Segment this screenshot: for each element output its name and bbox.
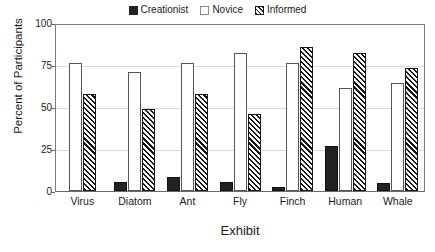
x-tick-label-virus: Virus: [56, 196, 109, 207]
legend-item-creationist: Creationist: [129, 5, 189, 15]
bar-fly-novice: [234, 53, 247, 191]
y-tick-mark-0: [51, 192, 55, 193]
y-tick-label-0: 0: [8, 187, 52, 197]
bar-chart-figure: Creationist Novice Informed Percent of P…: [0, 0, 435, 252]
legend-label-creationist: Creationist: [141, 5, 189, 15]
bar-whale-creationist: [377, 183, 390, 191]
bar-ant-creationist: [167, 177, 180, 191]
legend-swatch-informed-icon: [255, 6, 264, 15]
legend-label-informed: Informed: [267, 5, 306, 15]
legend-item-informed: Informed: [255, 5, 306, 15]
x-tick-label-finch: Finch: [266, 196, 319, 207]
x-tick-label-human: Human: [319, 196, 372, 207]
x-tick-label-fly: Fly: [214, 196, 267, 207]
legend-swatch-novice-icon: [200, 6, 209, 15]
bar-group-human: [319, 25, 372, 191]
bar-finch-creationist: [272, 187, 285, 191]
legend-swatch-creationist-icon: [129, 6, 138, 15]
x-tick-label-diatom: Diatom: [109, 196, 162, 207]
bar-group-finch: [266, 25, 319, 191]
bar-group-virus: [56, 25, 109, 191]
legend-label-novice: Novice: [212, 5, 243, 15]
legend-item-novice: Novice: [200, 5, 243, 15]
x-tick-label-ant: Ant: [161, 196, 214, 207]
bar-group-ant: [161, 25, 214, 191]
x-axis-title: Exhibit: [55, 224, 425, 238]
x-axis-tick-labels: VirusDiatomAntFlyFinchHumanWhale: [56, 196, 424, 207]
bar-diatom-creationist: [114, 182, 127, 191]
chart-legend: Creationist Novice Informed: [0, 2, 435, 18]
bar-ant-novice: [181, 63, 194, 191]
bar-group-diatom: [109, 25, 162, 191]
bar-finch-novice: [286, 63, 299, 191]
bar-groups: [56, 25, 424, 191]
y-tick-label-25: 25: [8, 145, 52, 155]
x-tick-label-whale: Whale: [371, 196, 424, 207]
bar-finch-informed: [300, 47, 313, 191]
bar-virus-novice: [69, 63, 82, 191]
bar-human-creationist: [325, 146, 338, 191]
bar-diatom-novice: [128, 72, 141, 191]
y-tick-label-50: 50: [8, 103, 52, 113]
bar-ant-informed: [195, 94, 208, 191]
bar-fly-creationist: [220, 182, 233, 191]
y-tick-label-100: 100: [8, 19, 52, 29]
bar-group-fly: [214, 25, 267, 191]
bar-group-whale: [371, 25, 424, 191]
bar-fly-informed: [248, 114, 261, 191]
bar-human-novice: [339, 88, 352, 191]
bar-whale-novice: [391, 83, 404, 191]
bar-human-informed: [353, 53, 366, 191]
bar-diatom-informed: [142, 109, 155, 191]
bar-virus-informed: [83, 94, 96, 191]
y-tick-label-75: 75: [8, 61, 52, 71]
bar-whale-informed: [405, 68, 418, 191]
